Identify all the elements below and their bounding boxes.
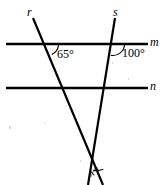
angle-label-100: 100° [122, 47, 145, 59]
scan-speck [112, 62, 113, 64]
diagram-canvas [0, 0, 164, 185]
scan-speck [9, 126, 11, 129]
geometry-diagram: r s m n 65° 100° x° [0, 0, 164, 185]
line-label-s: s [113, 6, 118, 18]
scan-speck [128, 78, 129, 80]
angle-label-65: 65° [57, 48, 74, 60]
line-label-m: m [150, 36, 159, 48]
line-label-n: n [150, 80, 156, 92]
scan-speck [44, 122, 45, 124]
line-label-r: r [27, 6, 32, 18]
scan-speck [80, 160, 81, 162]
